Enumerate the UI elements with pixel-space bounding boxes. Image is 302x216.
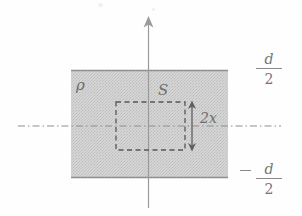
- lower-surface-position-label: d 2: [256, 162, 282, 196]
- upper-surface-denominator: 2: [262, 69, 277, 86]
- lower-surface-numerator: d: [262, 162, 277, 178]
- gaussian-surface-label: S: [158, 83, 168, 98]
- scan-speck: [152, 8, 155, 11]
- height-dimension-label: 2x: [200, 111, 217, 125]
- lower-surface-denominator: 2: [262, 179, 277, 196]
- figure-container: ρ S 2x d 2 d 2: [0, 0, 302, 216]
- lower-surface-minus-icon: [240, 170, 251, 171]
- upper-surface-position-label: d 2: [256, 52, 282, 86]
- scan-speck: [98, 3, 103, 7]
- upper-surface-numerator: d: [262, 52, 277, 68]
- charge-density-label: ρ: [76, 78, 85, 93]
